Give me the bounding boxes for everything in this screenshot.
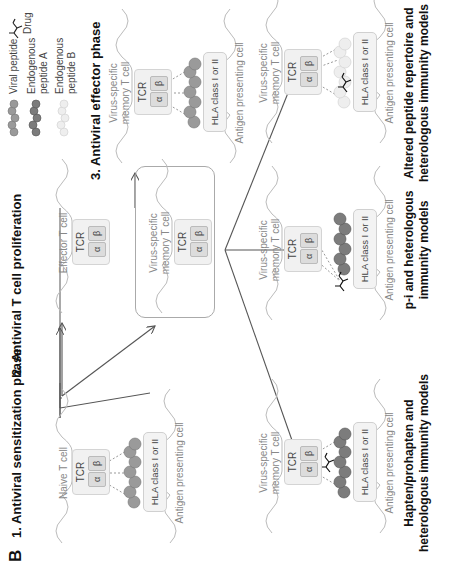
altered-model-line1: Altered peptide repertoire and [402, 0, 417, 188]
tcr-label: TCR [75, 450, 86, 494]
tcr-label: TCR [287, 50, 298, 94]
tcr: TCR α β [284, 226, 322, 272]
memory-line1: Virus-specific [108, 53, 120, 133]
beta-chain: β [300, 56, 318, 71]
naive-t-cell-label: Naive T cell [58, 438, 70, 508]
hla-molecule: HLA class I or II [203, 52, 227, 132]
figure-canvas: B 1. Antiviral sensitization phase 2. An… [0, 0, 460, 568]
tcr-label: TCR [75, 220, 86, 264]
memory-line2: memory T cell [120, 53, 132, 133]
altered-model-line2: heterologous immunity models [417, 0, 432, 188]
beta-chain: β [150, 76, 168, 91]
memory-line2: memory T cell [270, 33, 282, 113]
tcr: TCR α β [284, 49, 322, 95]
alpha-chain: α [300, 72, 318, 87]
hapten-model-unit: Virus-specific memory T cell TCR α β HLA… [250, 388, 460, 538]
pi-model-unit: Virus-specific memory T cell TCR α β HLA… [250, 175, 460, 325]
hla-molecule: HLA class I or II [353, 422, 377, 502]
tcr: TCR α β [284, 439, 322, 485]
phase3-memory-unit: Virus-specific memory T cell TCR α β HLA… [100, 18, 260, 168]
tcr-label: TCR [287, 440, 298, 484]
alpha-chain: α [150, 92, 168, 107]
naive-t-cell-unit: Naive T cell TCR α β HLA class I or II A… [40, 398, 200, 548]
tcr-label: TCR [137, 70, 148, 114]
memory-line1: Virus-specific [258, 210, 270, 290]
effector-t-cell-unit: Effector T cell TCR α β [40, 168, 120, 318]
beta-chain: β [88, 226, 106, 241]
beta-chain: β [300, 233, 318, 248]
drug-icon [321, 453, 334, 472]
apc-label: Antigen presenting cell [234, 40, 246, 146]
altered-peptide-model-unit: Virus-specific memory T cell TCR α β HLA… [250, 0, 460, 148]
hla-molecule: HLA class I or II [143, 432, 167, 512]
memory-line1: Virus-specific [148, 203, 160, 283]
memory-line2: memory T cell [270, 210, 282, 290]
tcr: TCR α β [72, 449, 110, 495]
apc-label: Antigen presenting cell [174, 420, 186, 526]
tcr: TCR α β [72, 219, 110, 265]
beta-chain: β [88, 456, 106, 471]
hla-molecule: HLA class I or II [353, 32, 377, 112]
apc-label: Antigen presenting cell [384, 20, 396, 126]
memory-t-cell-center-unit: Virus-specific memory T cell TCR α β [140, 168, 220, 318]
hla-molecule: HLA class I or II [353, 209, 377, 289]
alpha-chain: α [300, 462, 318, 477]
memory-line2: memory T cell [270, 423, 282, 503]
tcr-label: TCR [287, 227, 298, 271]
apc-label: Antigen presenting cell [384, 197, 396, 303]
memory-line1: Virus-specific [258, 33, 270, 113]
hapten-model-line1: Hapten/prohapten and [402, 368, 417, 558]
beta-chain: β [300, 446, 318, 461]
alpha-chain: α [88, 472, 106, 487]
alpha-chain: α [88, 242, 106, 257]
tcr: TCR α β [134, 69, 172, 115]
memory-line1: Virus-specific [258, 423, 270, 503]
alpha-chain: α [300, 249, 318, 264]
hapten-model-line2: heterologous immunity models [417, 368, 432, 558]
apc-label: Antigen presenting cell [384, 410, 396, 516]
effector-t-cell-label: Effector T cell [58, 208, 70, 278]
alpha-chain: α [190, 242, 208, 257]
beta-chain: β [190, 226, 208, 241]
memory-line2: memory T cell [160, 203, 172, 283]
tcr-label: TCR [177, 220, 188, 264]
tcr: TCR α β [174, 219, 212, 265]
